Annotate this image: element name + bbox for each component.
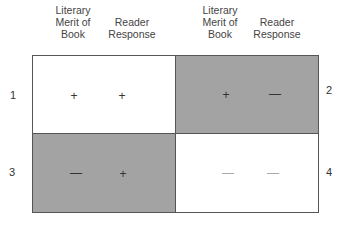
header-literary-merit-left: LiteraryMerit ofBook xyxy=(48,4,98,40)
quadrant-3 xyxy=(32,133,176,213)
q4-merit-sign: — xyxy=(218,167,238,179)
quadrant-number-3: 3 xyxy=(9,166,15,178)
q1-response-sign: + xyxy=(112,90,132,102)
header-reader-response-right: ReaderResponse xyxy=(247,16,307,40)
q4-response-sign: — xyxy=(263,167,283,179)
quadrant-4 xyxy=(175,133,319,213)
quadrant-number-4: 4 xyxy=(326,166,332,178)
q1-merit-sign: + xyxy=(64,90,84,102)
header-literary-merit-right: LiteraryMerit ofBook xyxy=(195,4,245,40)
quadrant-number-2: 2 xyxy=(326,84,332,96)
q3-response-sign: + xyxy=(113,168,133,180)
quadrant-2 xyxy=(175,55,319,134)
header-reader-response-left: ReaderResponse xyxy=(102,16,162,40)
quadrant-1 xyxy=(32,55,176,134)
q2-response-sign: — xyxy=(265,88,285,100)
quadrant-number-1: 1 xyxy=(10,89,16,101)
q2-merit-sign: + xyxy=(216,89,236,101)
q3-merit-sign: — xyxy=(66,167,86,179)
